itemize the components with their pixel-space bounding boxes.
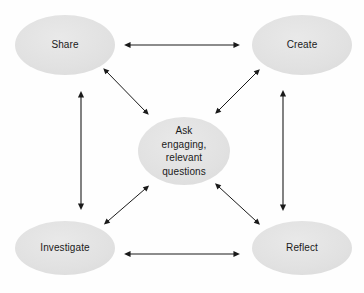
connector-create-center <box>219 73 256 110</box>
node-reflect[interactable] <box>252 221 352 275</box>
node-create[interactable] <box>252 15 352 75</box>
node-investigate[interactable] <box>15 221 115 275</box>
node-center-question[interactable] <box>138 117 230 185</box>
diagram-canvas: Share Create Ask engaging, relevant ques… <box>0 0 364 293</box>
node-share[interactable] <box>15 15 115 75</box>
connector-investigate-center <box>108 189 145 221</box>
connector-reflect-center <box>219 187 256 221</box>
connector-share-center <box>107 72 145 111</box>
diagram-svg <box>0 0 364 293</box>
